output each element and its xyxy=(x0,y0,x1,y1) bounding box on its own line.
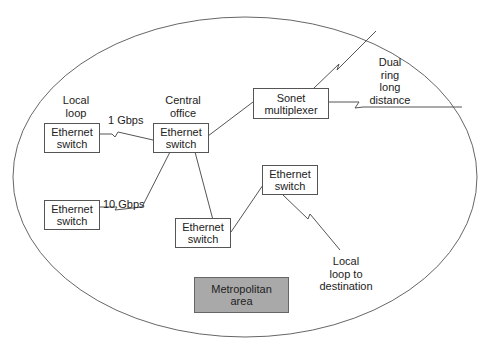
annotation-line: Dual xyxy=(362,56,418,69)
box-line: switch xyxy=(275,180,306,192)
caption-line: Local xyxy=(56,94,96,107)
dual-ring-long-distance-label: Dual ring long distance xyxy=(362,56,418,106)
box-line: multiplexer xyxy=(264,104,317,116)
box-line: switch xyxy=(188,233,219,245)
annotation-line: ring xyxy=(362,69,418,82)
link-label-1gbps: 1 Gbps xyxy=(108,114,143,127)
box-line: switch xyxy=(57,138,88,150)
annotation-line: Local xyxy=(318,255,374,268)
local-loop-caption: Local loop xyxy=(56,94,96,119)
link-label-10gbps: 10 Gbps xyxy=(103,198,145,211)
link-destination xyxy=(283,195,340,250)
annotation-line: distance xyxy=(362,94,418,107)
region-line: area xyxy=(230,295,252,307)
annotation-line: destination xyxy=(318,280,374,293)
sonet-multiplexer[interactable]: Sonet multiplexer xyxy=(253,88,329,119)
ethernet-switch-central-office[interactable]: Ethernet switch xyxy=(153,123,209,153)
box-line: Ethernet xyxy=(182,221,224,233)
link-central-lower-middle xyxy=(195,152,213,220)
caption-line: Central xyxy=(160,94,206,107)
box-line: switch xyxy=(166,138,197,150)
metropolitan-area-label: Metropolitan area xyxy=(194,277,289,313)
box-line: Ethernet xyxy=(51,126,93,138)
ethernet-switch-lower-left[interactable]: Ethernet switch xyxy=(44,200,100,230)
annotation-line: long xyxy=(362,81,418,94)
box-line: switch xyxy=(57,215,88,227)
ethernet-switch-local-loop[interactable]: Ethernet switch xyxy=(44,123,100,153)
box-line: Ethernet xyxy=(51,203,93,215)
link-lower-middle-right xyxy=(231,185,263,232)
caption-line: office xyxy=(160,107,206,120)
central-office-caption: Central office xyxy=(160,94,206,119)
link-central-sonet xyxy=(208,102,253,136)
region-line: Metropolitan xyxy=(211,283,272,295)
ethernet-switch-lower-middle[interactable]: Ethernet switch xyxy=(175,218,231,248)
box-line: Sonet xyxy=(277,92,306,104)
caption-line: loop xyxy=(56,107,96,120)
local-loop-to-destination-label: Local loop to destination xyxy=(318,255,374,293)
metro-network-diagram: Local loop Ethernet switch 1 Gbps Centra… xyxy=(0,0,484,351)
ethernet-switch-right[interactable]: Ethernet switch xyxy=(262,165,318,195)
annotation-line: loop to xyxy=(318,268,374,281)
link-1gbps xyxy=(99,132,153,140)
box-line: Ethernet xyxy=(160,126,202,138)
box-line: Ethernet xyxy=(269,168,311,180)
